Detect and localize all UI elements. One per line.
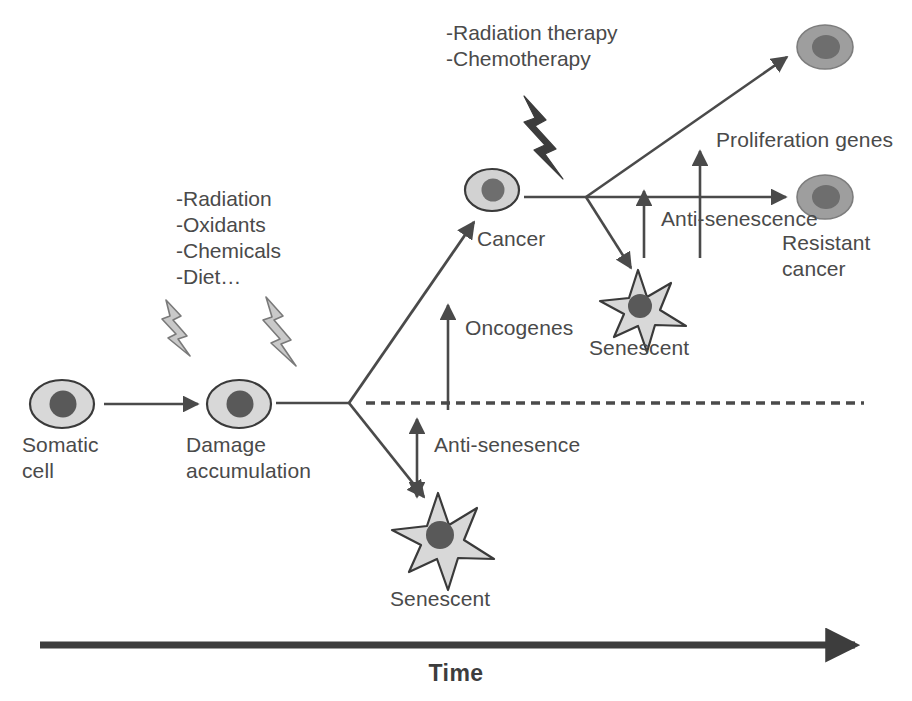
damage-stressors-label: -Radiation -Oxidants -Chemicals -Diet… [176, 186, 281, 290]
somatic-cell-icon [30, 380, 94, 428]
anti-senescence-upper-label: Anti-senescence [661, 206, 818, 232]
cancer-cell-icon [465, 169, 519, 211]
arrow-branch-to-senescent-lower [349, 403, 424, 497]
damage-cell-label: Damage accumulation [186, 432, 311, 484]
somatic-cell-label: Somatic cell [22, 432, 99, 484]
therapy-stressors-label: -Radiation therapy -Chemotherapy [446, 20, 618, 72]
lightning-bolt-dark-icon [524, 96, 563, 179]
pathway-diagram: -Radiation -Oxidants -Chemicals -Diet… -… [0, 0, 912, 701]
proliferation-genes-label: Proliferation genes [716, 127, 893, 153]
arrow-fan-to-senescent-upper [586, 197, 631, 268]
lightning-bolt-icon-1 [162, 300, 190, 356]
arrow-branch-to-cancer [349, 222, 474, 403]
senescent-cell-lower-icon [392, 493, 494, 590]
senescent-cell-lower-label: Senescent [390, 586, 490, 612]
cancer-cell-label: Cancer [477, 226, 545, 252]
damage-cell-icon [207, 380, 271, 428]
senescent-cell-upper-label: Senescent [589, 335, 689, 361]
resistant-cancer-cell-upper-icon [797, 25, 853, 69]
oncogenes-label: Oncogenes [465, 315, 573, 341]
time-axis-title: Time [0, 660, 912, 686]
anti-senesence-lower-label: Anti-senesence [434, 432, 580, 458]
resistant-cancer-label: Resistant cancer [782, 230, 870, 282]
lightning-bolt-icon-2 [263, 297, 296, 366]
